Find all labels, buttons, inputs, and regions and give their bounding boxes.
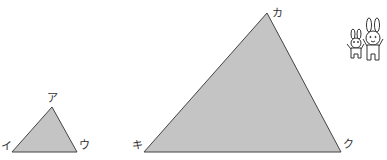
vertex-label-ka: カ: [272, 8, 283, 19]
vertex-label-ki: キ: [132, 140, 143, 151]
vertex-label-u: ウ: [79, 140, 90, 151]
vertex-label-ku: ク: [343, 139, 354, 150]
diagram-canvas: [0, 0, 387, 160]
vertex-label-i: イ: [1, 141, 12, 152]
vertex-label-a: ア: [47, 93, 58, 104]
small-rabbit-icon: [347, 29, 364, 58]
big-rabbit-icon: [363, 18, 383, 60]
rabbits-icon: [347, 18, 383, 60]
small-triangle: [12, 107, 77, 152]
large-triangle: [144, 13, 341, 152]
